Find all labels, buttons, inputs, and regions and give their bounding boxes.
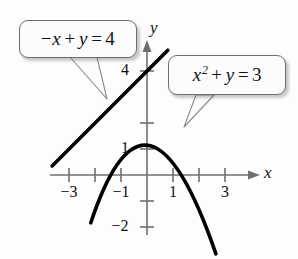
callout-parabola-pointer xyxy=(184,95,214,127)
x-axis-arrow xyxy=(248,171,260,180)
x-axis-name-label: x xyxy=(264,163,272,183)
line-equation-text: −x+y=4 xyxy=(41,28,115,50)
x-tick-label-neg3: −3 xyxy=(56,183,82,201)
y-axis-name-label: y xyxy=(150,18,158,38)
y-tick-label-1: 1 xyxy=(116,139,134,157)
callout-line-equation[interactable]: −x+y=4 xyxy=(19,20,137,58)
y-axis-arrow xyxy=(143,40,152,52)
math-graph-figure: −x+y=4 x2+y=3 x y −3 −1 1 3 4 1 −2 xyxy=(0,0,298,259)
callout-parabola-equation[interactable]: x2+y=3 xyxy=(168,55,286,95)
y-tick-label-neg2: −2 xyxy=(106,217,134,235)
x-tick-label-1: 1 xyxy=(164,183,182,201)
x-tick-label-neg1: −1 xyxy=(108,183,134,201)
x-tick-label-3: 3 xyxy=(216,183,234,201)
parabola-equation-text: x2+y=3 xyxy=(192,64,262,86)
y-tick-label-4: 4 xyxy=(116,61,134,79)
callout-line-pointer xyxy=(70,57,107,99)
